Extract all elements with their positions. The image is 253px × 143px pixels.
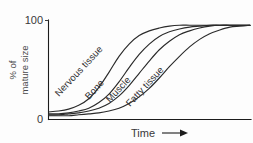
x-axis-title: Time (131, 127, 155, 139)
y-axis-tick-label-100: 100 (25, 14, 43, 26)
growth-curve-figure: 100 0 % of mature size Time Nervous tiss… (0, 0, 253, 143)
curve-label-fatty-tissue: Fatty tissue (123, 64, 165, 108)
curve-label-bone: Bone (82, 77, 106, 101)
y-axis-title-line2: mature size (19, 45, 30, 94)
y-axis-title-line1: % of (7, 60, 18, 79)
x-axis-arrow-icon (162, 130, 188, 137)
y-axis-title: % of mature size (7, 45, 30, 94)
y-axis-tick-label-0: 0 (37, 113, 43, 125)
chart-canvas: 100 0 % of mature size Time Nervous tiss… (0, 0, 253, 143)
